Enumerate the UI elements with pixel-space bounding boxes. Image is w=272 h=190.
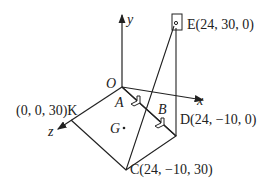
point-G-label: G [110,121,120,136]
point-B-label: B [158,102,167,117]
point-A-label: A [114,95,124,110]
geometry-diagram: y x z O E(24, 30, 0) D(24, −10, 0) C(24,… [0,0,272,190]
point-K-label: (0, 0, 30)K [16,103,77,119]
y-axis-label: y [125,12,134,27]
point-A-marker [131,96,140,106]
point-D-label: D(24, −10, 0) [180,112,257,128]
point-E-label: E(24, 30, 0) [187,17,254,33]
point-E-marker [174,21,177,24]
point-G-dot [123,127,126,130]
point-C-label: C(24, −10, 30) [130,162,213,178]
point-B-marker [155,118,164,128]
x-axis-label: x [196,93,204,108]
origin-label: O [106,76,116,91]
line-CE [126,26,174,170]
z-axis-label: z [47,124,54,139]
